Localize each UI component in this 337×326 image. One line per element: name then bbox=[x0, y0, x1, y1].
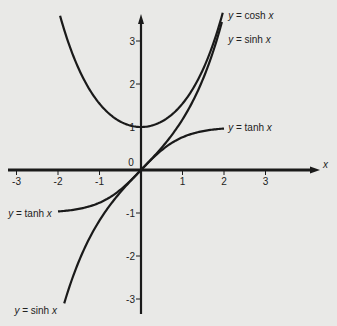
curve-label-cosh: y = cosh x bbox=[227, 10, 274, 21]
x-tick-label: 3 bbox=[263, 176, 269, 187]
x-tick-label: -1 bbox=[95, 176, 104, 187]
x-tick-label: 2 bbox=[221, 176, 227, 187]
curve-sinh bbox=[64, 22, 222, 303]
y-tick-label: 2 bbox=[129, 79, 135, 90]
origin-label: 0 bbox=[128, 157, 134, 168]
y-tick-label: -3 bbox=[126, 294, 135, 305]
x-tick-label: -2 bbox=[54, 176, 63, 187]
y-axis-arrow-icon bbox=[138, 14, 144, 24]
x-axis-arrow-icon bbox=[310, 167, 320, 174]
x-tick-label: 1 bbox=[180, 176, 186, 187]
hyperbolic-functions-chart: x-3-2-1123-3-2-11230 y = cosh xy = sinh … bbox=[0, 0, 337, 326]
curve-label-sinh: y = sinh x bbox=[13, 305, 58, 316]
x-axis-label: x bbox=[322, 159, 329, 170]
curve-label-sinh: y = sinh x bbox=[227, 34, 272, 45]
curve-label-tanh: y = tanh x bbox=[227, 122, 273, 133]
y-tick-label: 3 bbox=[129, 36, 135, 47]
curve-label-tanh: y = tanh x bbox=[7, 208, 53, 219]
y-tick-label: -2 bbox=[126, 251, 135, 262]
axes: x-3-2-1123-3-2-11230 bbox=[8, 14, 329, 314]
x-tick-label: -3 bbox=[12, 176, 21, 187]
y-tick-label: -1 bbox=[126, 208, 135, 219]
